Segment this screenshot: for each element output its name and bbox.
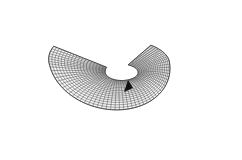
wireframe-surface-figure: 3D wireframe mesh surface with a funnel-…	[0, 0, 242, 160]
mesh-surface-graphic	[0, 0, 242, 160]
